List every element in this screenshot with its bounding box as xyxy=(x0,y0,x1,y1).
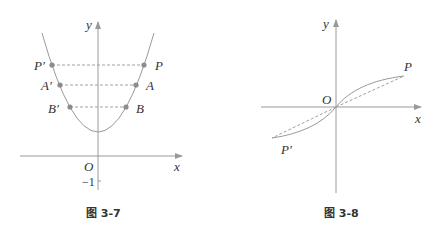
point-b xyxy=(123,104,128,109)
diagram-canvas: P P′ A A′ B B′ y x O −1 图 3-7 P P′ y x O… xyxy=(0,0,437,237)
y-axis-label: y xyxy=(84,17,92,32)
point-p-prime xyxy=(49,62,54,67)
label-a: A xyxy=(145,78,154,93)
caption-fig-3-7: 图 3-7 xyxy=(86,207,121,220)
figure-3-7: P P′ A A′ B B′ y x O −1 图 3-7 xyxy=(20,17,182,220)
dashed-segment-op xyxy=(336,76,404,107)
point-a-prime xyxy=(57,82,62,87)
point-b-prime xyxy=(67,104,72,109)
label-b: B xyxy=(136,101,144,116)
point-a xyxy=(133,82,138,87)
point-p xyxy=(141,62,146,67)
origin-label: O xyxy=(84,159,94,174)
x-axis-label: x xyxy=(173,159,180,174)
y-axis-label: y xyxy=(321,16,329,31)
label-a-prime: A′ xyxy=(40,78,52,93)
dashed-segment-op-prime xyxy=(272,107,336,138)
origin-label: O xyxy=(322,92,332,107)
label-p-prime: P′ xyxy=(280,142,292,157)
label-p-prime: P′ xyxy=(33,58,45,73)
tick-label-minus-1: −1 xyxy=(82,175,95,189)
label-p: P xyxy=(403,59,412,74)
x-axis-label: x xyxy=(414,111,421,126)
label-p: P xyxy=(154,58,163,73)
label-b-prime: B′ xyxy=(48,101,59,116)
figure-3-8: P P′ y x O 图 3-8 xyxy=(261,16,421,220)
caption-fig-3-8: 图 3-8 xyxy=(324,207,359,220)
